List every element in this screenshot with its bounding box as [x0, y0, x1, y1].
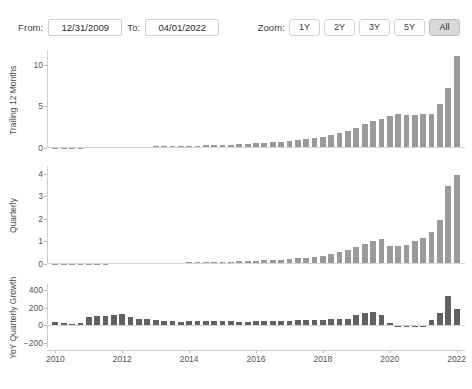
bar — [86, 317, 92, 325]
from-date-input[interactable]: 12/31/2009 — [48, 19, 122, 36]
bar — [345, 131, 351, 148]
bar — [362, 313, 368, 325]
panel-2-ylabel: Quarterly — [8, 162, 20, 270]
bar — [404, 115, 410, 148]
bar — [437, 104, 443, 148]
bar — [94, 316, 100, 326]
bar — [420, 114, 426, 148]
zoom-button-5y[interactable]: 5Y — [394, 19, 425, 36]
y-tick-label: 5 — [38, 102, 43, 110]
bar — [404, 245, 410, 264]
x-tick-label: 2012 — [113, 354, 132, 364]
bar — [362, 124, 368, 148]
x-tick-mark — [256, 350, 257, 353]
bar — [379, 119, 385, 148]
x-tick-mark — [122, 350, 123, 353]
panel-1-bars — [47, 50, 465, 148]
panel-1-ylabel: Trailing 12 Months — [8, 46, 20, 154]
x-tick-mark — [55, 350, 56, 353]
bar — [454, 56, 460, 148]
y-tick-mark — [44, 148, 47, 149]
bar — [445, 88, 451, 148]
bar — [370, 312, 376, 326]
bar — [412, 241, 418, 264]
bar — [103, 316, 109, 325]
y-tick-label: 400 — [29, 286, 43, 294]
panel-yoy-quarterly-growth: YoY Quarterly Growth −2000200400 2010201… — [0, 280, 472, 358]
y-tick-label: 2 — [38, 215, 43, 223]
bar — [370, 241, 376, 264]
x-tick-label: 2022 — [447, 354, 466, 364]
zoom-label: Zoom: — [258, 22, 285, 33]
x-tick-label: 2016 — [247, 354, 266, 364]
bar — [362, 244, 368, 264]
y-tick-label: −200 — [24, 339, 43, 347]
y-tick-label: 0 — [38, 144, 43, 152]
y-tick-label: 1 — [38, 237, 43, 245]
bar — [111, 315, 117, 325]
bar — [345, 250, 351, 264]
bar — [353, 128, 359, 148]
to-label: To: — [127, 22, 140, 33]
bar — [128, 317, 134, 325]
bar — [119, 314, 125, 325]
panel-2-plot: 01234 — [47, 166, 465, 264]
y-tick-mark — [44, 219, 47, 220]
bar — [454, 175, 460, 264]
y-tick-mark — [44, 290, 47, 291]
y-tick-label: 0 — [38, 321, 43, 329]
x-axis: 2010201220142016201820202022 — [47, 350, 465, 368]
bar — [445, 296, 451, 325]
x-tick-mark — [323, 350, 324, 353]
bar — [437, 220, 443, 264]
bar — [353, 247, 359, 264]
y-tick-mark — [44, 343, 47, 344]
panel-quarterly: Quarterly 01234 — [0, 162, 472, 270]
x-tick-label: 2010 — [46, 354, 65, 364]
zoom-controls: Zoom: 1Y 2Y 3Y 5Y All — [258, 19, 460, 36]
x-tick-mark — [457, 350, 458, 353]
bar — [395, 114, 401, 148]
bar — [395, 246, 401, 264]
panel-trailing-12-months: Trailing 12 Months 0510 — [0, 46, 472, 154]
bar — [337, 133, 343, 148]
y-tick-label: 4 — [38, 170, 43, 178]
y-tick-label: 3 — [38, 192, 43, 200]
bar — [387, 246, 393, 264]
bar — [437, 313, 443, 325]
bar — [370, 121, 376, 148]
bar — [379, 315, 385, 326]
zoom-button-2y[interactable]: 2Y — [324, 19, 355, 36]
zero-line — [47, 147, 465, 148]
y-tick-mark — [44, 196, 47, 197]
to-date-input[interactable]: 04/01/2022 — [145, 19, 219, 36]
x-tick-mark — [390, 350, 391, 353]
bar — [454, 309, 460, 326]
zoom-button-3y[interactable]: 3Y — [359, 19, 390, 36]
from-label: From: — [18, 22, 43, 33]
panel-1-plot: 0510 — [47, 50, 465, 148]
y-tick-mark — [44, 308, 47, 309]
chart-dashboard: From: 12/31/2009 To: 04/01/2022 Zoom: 1Y… — [0, 0, 472, 389]
panel-3-ylabel: YoY Quarterly Growth — [8, 274, 20, 362]
bar — [379, 239, 385, 264]
chart-toolbar: From: 12/31/2009 To: 04/01/2022 Zoom: 1Y… — [0, 0, 472, 44]
bar — [353, 315, 359, 326]
y-tick-label: 200 — [29, 304, 43, 312]
bar — [412, 115, 418, 148]
y-tick-mark — [44, 174, 47, 175]
y-tick-label: 0 — [38, 260, 43, 268]
bar — [387, 116, 393, 148]
zoom-button-all[interactable]: All — [429, 19, 460, 36]
panel-2-bars — [47, 166, 465, 264]
zoom-button-1y[interactable]: 1Y — [289, 19, 320, 36]
y-tick-mark — [44, 65, 47, 66]
y-tick-label: 10 — [34, 61, 43, 69]
y-tick-mark — [44, 241, 47, 242]
x-tick-label: 2020 — [380, 354, 399, 364]
x-tick-label: 2018 — [313, 354, 332, 364]
bar — [429, 232, 435, 264]
y-tick-mark — [44, 106, 47, 107]
bar — [429, 114, 435, 148]
panel-3-bars — [47, 284, 465, 348]
